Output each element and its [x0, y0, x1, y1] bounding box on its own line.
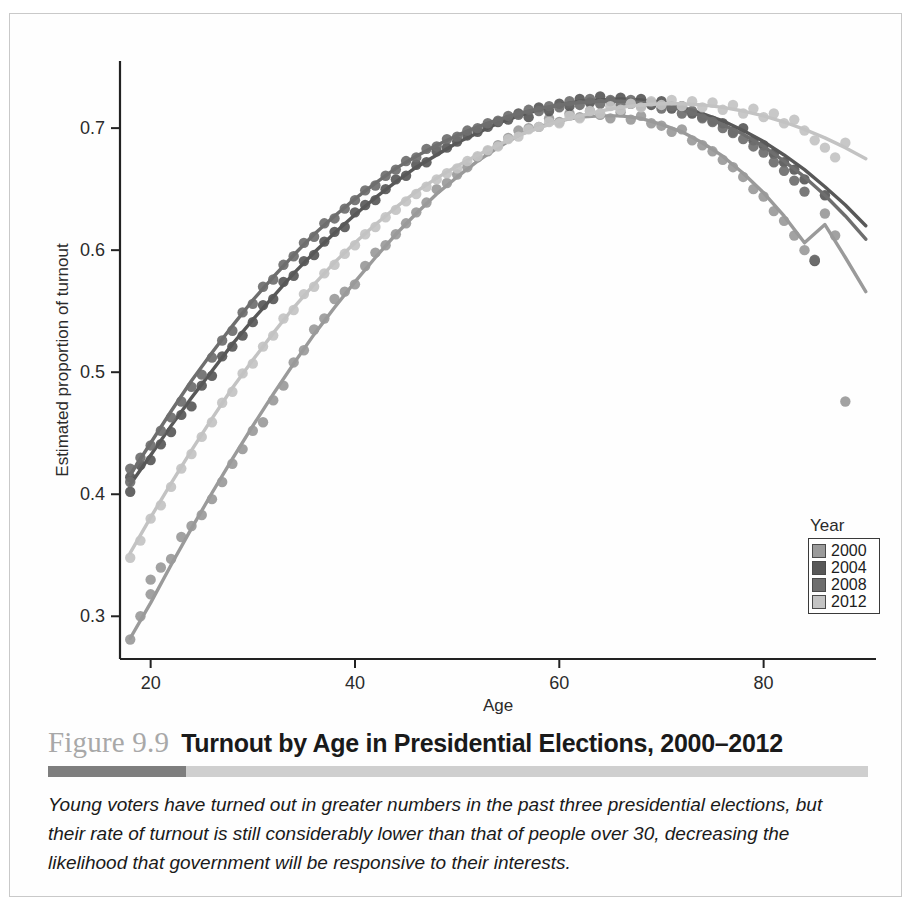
data-point	[779, 166, 789, 176]
data-point	[820, 142, 830, 152]
data-point	[840, 396, 850, 406]
figure-container: 204060800.30.40.50.60.7AgeEstimated prop…	[9, 13, 902, 897]
legend-swatch	[812, 544, 826, 558]
legend-label: 2000	[831, 543, 867, 559]
legend-item: 2008	[812, 576, 875, 593]
data-point	[125, 487, 135, 497]
x-tick-label: 20	[141, 673, 161, 693]
x-tick-label: 60	[549, 673, 569, 693]
data-point	[145, 574, 155, 584]
data-point	[810, 255, 820, 265]
data-point	[789, 175, 799, 185]
data-point	[820, 208, 830, 218]
legend-swatch	[812, 578, 826, 592]
fit-line	[130, 101, 866, 474]
chart-area: 204060800.30.40.50.60.7AgeEstimated prop…	[10, 14, 901, 714]
fit-line	[130, 104, 866, 553]
caption-block: Figure 9.9 Turnout by Age in Presidentia…	[10, 714, 901, 878]
legend-item: 2000	[812, 542, 875, 559]
data-point	[125, 477, 135, 487]
y-tick-label: 0.4	[80, 484, 105, 504]
rule-bar-light-segment	[186, 766, 868, 777]
figure-caption: Young voters have turned out in greater …	[48, 791, 860, 878]
data-point	[830, 152, 840, 162]
legend-box: 2000200420082012	[808, 538, 880, 614]
legend-title: Year	[808, 517, 880, 534]
legend-label: 2012	[831, 594, 867, 610]
figure-title-row: Figure 9.9 Turnout by Age in Presidentia…	[10, 714, 901, 759]
data-point	[799, 186, 809, 196]
series-2000	[125, 106, 866, 645]
x-tick-label: 40	[345, 673, 365, 693]
legend-label: 2008	[831, 577, 867, 593]
y-tick-label: 0.6	[80, 240, 105, 260]
rule-bar	[48, 766, 868, 777]
legend-item: 2012	[812, 593, 875, 610]
legend-item: 2004	[812, 559, 875, 576]
legend-label: 2004	[831, 560, 867, 576]
legend-swatch	[812, 561, 826, 575]
rule-bar-dark-segment	[48, 766, 186, 777]
y-tick-label: 0.7	[80, 118, 105, 138]
y-tick-label: 0.5	[80, 362, 105, 382]
x-axis-title: Age	[483, 696, 513, 714]
y-axis-title: Estimated proportion of turnout	[53, 243, 72, 477]
series-layer	[125, 91, 866, 644]
legend-swatch	[812, 595, 826, 609]
data-point	[799, 245, 809, 255]
figure-number: Figure 9.9	[48, 726, 169, 759]
y-tick-label: 0.3	[80, 606, 105, 626]
turnout-scatter-chart: 204060800.30.40.50.60.7AgeEstimated prop…	[10, 14, 901, 714]
data-point	[769, 157, 779, 167]
axis-labels-layer: 204060800.30.40.50.60.7AgeEstimated prop…	[53, 118, 774, 714]
series-2004	[125, 91, 866, 497]
legend: Year 2000200420082012	[808, 517, 880, 614]
x-tick-label: 80	[754, 673, 774, 693]
data-point	[156, 562, 166, 572]
figure-title: Turnout by Age in Presidential Elections…	[181, 729, 783, 758]
series-2008	[125, 94, 866, 488]
fit-line	[130, 99, 866, 485]
